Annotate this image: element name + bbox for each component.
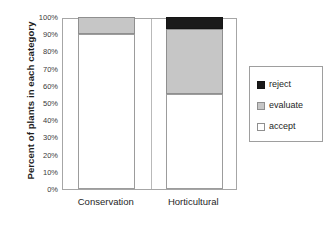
y-axis-tick-label: 50% — [26, 100, 58, 108]
y-axis-tick-labels: 100%90%80%70%60%50%40%30%20%10%0% — [26, 18, 58, 190]
legend-label: reject — [269, 80, 291, 89]
legend-label: accept — [269, 122, 296, 131]
y-axis-tick-label: 10% — [26, 169, 58, 177]
legend-swatch-reject-icon — [257, 81, 265, 89]
plot-divider-line — [151, 19, 152, 189]
legend-item-reject[interactable]: reject — [257, 74, 322, 95]
y-axis-tick-label: 70% — [26, 66, 58, 74]
bar-segment-accept — [166, 94, 223, 189]
legend-swatch-evaluate-icon — [257, 102, 265, 110]
legend-swatch-accept-icon — [257, 123, 265, 131]
bar-segment-accept — [78, 34, 135, 189]
y-axis-tick-label: 30% — [26, 135, 58, 143]
y-axis-tick-label: 80% — [26, 49, 58, 57]
legend-item-accept[interactable]: accept — [257, 116, 322, 137]
y-axis-tick-label: 40% — [26, 117, 58, 125]
y-axis-tick-label: 60% — [26, 83, 58, 91]
bar-segment-evaluate — [166, 29, 223, 94]
stacked-bar-chart: Percent of plants in each category 100%9… — [0, 0, 332, 227]
chart-legend: rejectevaluateaccept — [249, 66, 323, 142]
x-axis-tick-label: Conservation — [78, 196, 134, 207]
x-axis-tick-label: Horticultural — [168, 196, 219, 207]
legend-item-evaluate[interactable]: evaluate — [257, 95, 322, 116]
legend-label: evaluate — [269, 101, 303, 110]
bar-conservation — [78, 17, 135, 189]
y-axis-tick-label: 20% — [26, 152, 58, 160]
bar-segment-reject — [166, 17, 223, 29]
y-axis-tick-label: 0% — [26, 186, 58, 194]
bar-segment-evaluate — [78, 17, 135, 34]
bar-horticultural — [166, 17, 223, 189]
y-axis-tick-label: 90% — [26, 31, 58, 39]
plot-area — [62, 18, 237, 190]
y-axis-tick-label: 100% — [26, 14, 58, 22]
x-axis-tick-labels: ConservationHorticultural — [62, 196, 237, 214]
plot-inner — [63, 19, 236, 189]
